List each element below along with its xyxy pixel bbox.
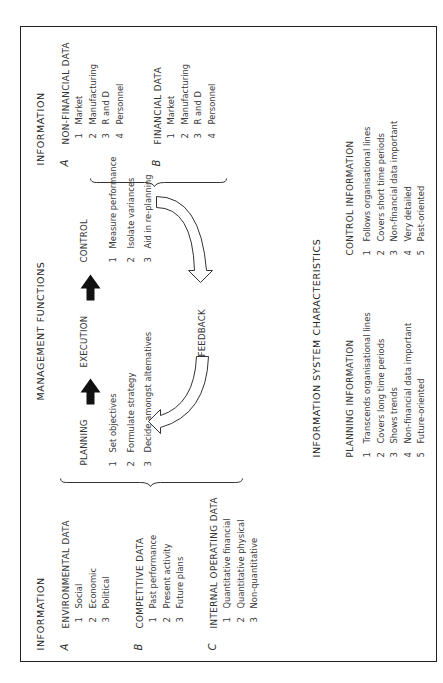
right-section-b: B FINANCIAL DATA 1Market 2Manufacturing …	[150, 63, 218, 144]
list-item: 3R and D	[99, 42, 113, 138]
list-item: 2Covers long time periods	[374, 312, 388, 457]
list-item: 1Market	[72, 42, 86, 138]
section-title: CONTROL INFORMATION	[342, 120, 356, 255]
section-items: 1Transcends organisational lines 2Covers…	[360, 312, 428, 457]
section-items: 1Market 2Manufacturing 3R and D 4Personn…	[72, 42, 126, 144]
control-information: CONTROL INFORMATION 1Follows organisatio…	[342, 120, 428, 255]
list-item: 5Future-oriented	[414, 312, 428, 457]
list-item: 5Past-oriented	[414, 120, 428, 255]
list-item: 4Personnel	[113, 42, 127, 138]
list-item: 2Manufacturing	[178, 63, 192, 138]
list-item: 2Covers short time periods	[374, 120, 388, 255]
list-item: 1Follows organisational lines	[360, 120, 374, 255]
list-item: 4Non-financial data important	[401, 312, 415, 457]
section-title: PLANNING INFORMATION	[342, 312, 356, 457]
right-information-title: INFORMATION	[34, 92, 45, 165]
arrow-right-icon	[80, 378, 100, 404]
list-item: 1Transcends organisational lines	[360, 312, 374, 457]
planning-information: PLANNING INFORMATION 1Transcends organis…	[342, 312, 428, 457]
section-letter: B	[150, 159, 161, 166]
right-brace-icon	[90, 178, 226, 186]
section-items: 1Market 2Manufacturing 3R and D 4Personn…	[164, 63, 218, 144]
arrow-right-icon	[80, 274, 100, 300]
section-letter: A	[58, 159, 69, 166]
feedback-loop-icon	[148, 196, 212, 433]
list-item: 1Market	[164, 63, 178, 138]
list-item: 3R and D	[191, 63, 205, 138]
characteristics-title: INFORMATION SYSTEM CHARACTERISTICS	[310, 238, 321, 457]
rotated-diagram: INFORMATION A ENVIRONMENTAL DATA 1Social…	[20, 26, 437, 662]
right-section-a: A NON-FINANCIAL DATA 1Market 2Manufactur…	[58, 42, 126, 144]
left-brace-icon	[60, 478, 242, 486]
list-item: 3Non-financial data important	[387, 120, 401, 255]
list-item: 4Very detailed	[401, 120, 415, 255]
list-item: 4Personnel	[205, 63, 219, 138]
list-item: 3Shows trends	[387, 312, 401, 457]
section-items: 1Follows organisational lines 2Covers sh…	[360, 120, 428, 255]
section-title: NON-FINANCIAL DATA	[58, 42, 72, 144]
list-item: 2Manufacturing	[86, 42, 100, 138]
section-title: FINANCIAL DATA	[150, 63, 164, 144]
